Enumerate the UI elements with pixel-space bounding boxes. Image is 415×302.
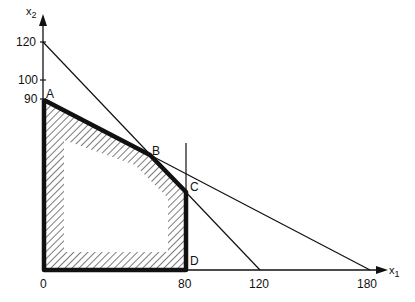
y-axis-label: x2 — [26, 6, 37, 20]
vertex-label-b: B — [152, 145, 160, 157]
hatched-region — [44, 100, 186, 270]
x-tick-label-80: 80 — [178, 278, 191, 290]
vertex-label-a: A — [46, 88, 54, 100]
y-tick-label-90: 90 — [24, 93, 37, 105]
x-axis-arrow-icon — [376, 266, 388, 274]
y-axis-arrow-icon — [39, 14, 47, 26]
x-tick-label-180: 180 — [357, 278, 377, 290]
y-tick-label-120: 120 — [16, 36, 36, 48]
x-tick-label-120: 120 — [249, 278, 269, 290]
vertex-label-c: C — [190, 181, 199, 193]
vertex-label-d: D — [190, 255, 199, 267]
feasible-region-diagram — [0, 0, 415, 302]
x-tick-label-0: 0 — [40, 278, 47, 290]
y-tick-label-100: 100 — [18, 74, 38, 86]
x-axis-label: x1 — [389, 265, 400, 279]
